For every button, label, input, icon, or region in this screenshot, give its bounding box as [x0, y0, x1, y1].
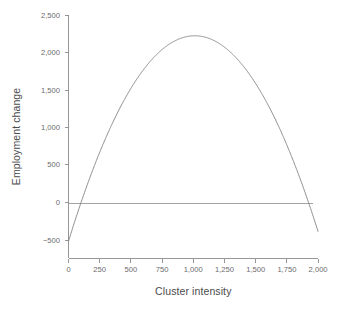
- y-tick-label: 2,500: [41, 11, 60, 20]
- y-axis-title: Employment change: [10, 88, 22, 185]
- employment-change-chart: 2,500 2,000 1,500 1,000 500 0 −500 0 250…: [0, 0, 339, 309]
- chart-background: [0, 0, 339, 309]
- y-tick-label: 1,000: [41, 123, 60, 132]
- x-tick-label: 0: [66, 265, 70, 274]
- x-tick-label: 1,750: [277, 265, 296, 274]
- y-tick-label: 1,500: [41, 86, 60, 95]
- x-tick-label: 2,000: [309, 265, 328, 274]
- x-axis-tick-labels: 0 250 500 750 1,000 1,250 1,500 1,750 2,…: [66, 265, 327, 274]
- y-tick-label: 0: [56, 198, 60, 207]
- x-tick-label: 1,000: [184, 265, 203, 274]
- x-tick-label: 1,250: [215, 265, 234, 274]
- y-tick-label: 500: [47, 160, 60, 169]
- x-tick-label: 1,500: [246, 265, 265, 274]
- x-tick-label: 250: [93, 265, 106, 274]
- y-tick-label: 2,000: [41, 48, 60, 57]
- x-tick-label: 750: [156, 265, 169, 274]
- x-axis-title: Cluster intensity: [155, 285, 232, 297]
- x-tick-label: 500: [125, 265, 138, 274]
- y-tick-label: −500: [43, 236, 60, 245]
